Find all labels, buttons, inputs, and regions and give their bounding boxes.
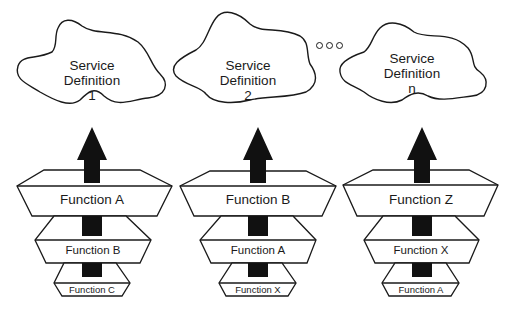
function-stack-1 [17, 127, 172, 296]
cloud-label-n: Service Definition n [372, 51, 452, 96]
cloud-n-line3: n [372, 81, 452, 96]
function-label-middle-3: Function X [371, 244, 471, 256]
function-label-bottom-2: Function X [218, 284, 298, 295]
cloud-1-line3: 1 [52, 88, 132, 103]
function-label-bottom-1: Function C [52, 284, 132, 295]
function-stack-3 [343, 127, 498, 296]
cloud-2-line3: 2 [208, 88, 288, 103]
cloud-2-line2: Definition [208, 73, 288, 88]
function-label-middle-2: Function A [208, 244, 308, 256]
cloud-n-line1: Service [372, 51, 452, 66]
function-stack-2 [180, 127, 336, 296]
function-label-top-2: Function B [198, 192, 318, 207]
service-definition-diagram [0, 0, 516, 314]
function-label-bottom-3: Function A [381, 284, 461, 295]
cloud-2-line1: Service [208, 58, 288, 73]
ellipsis-icon [316, 42, 346, 50]
function-label-middle-1: Function B [43, 244, 143, 256]
cloud-label-2: Service Definition 2 [208, 58, 288, 103]
cloud-n-line2: Definition [372, 66, 452, 81]
cloud-label-1: Service Definition 1 [52, 58, 132, 103]
cloud-1-line1: Service [52, 58, 132, 73]
cloud-1-line2: Definition [52, 73, 132, 88]
function-label-top-1: Function A [32, 192, 152, 207]
function-label-top-3: Function Z [361, 192, 481, 207]
